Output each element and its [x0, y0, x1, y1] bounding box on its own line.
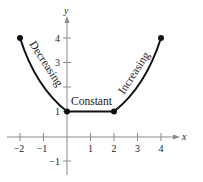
point-0-1: [64, 109, 70, 115]
y-axis-arrow-icon: [65, 16, 70, 23]
point-4-4: [158, 35, 164, 41]
x-axis-label: x: [181, 131, 187, 142]
x-tick-label: 1: [88, 143, 93, 154]
point-neg2-4: [17, 35, 23, 41]
x-tick-label: 4: [159, 143, 164, 154]
x-tick-label: −2: [14, 143, 25, 154]
x-axis-arrow-icon: [173, 135, 180, 140]
constant-label: Constant: [71, 95, 113, 107]
y-tick-label: 1: [55, 106, 60, 117]
y-tick-label: 4: [55, 33, 60, 44]
x-tick-label: −1: [37, 143, 48, 154]
x-axis: [7, 133, 180, 141]
point-2-1: [111, 109, 117, 115]
y-axis-label: y: [63, 5, 69, 16]
x-tick-label: 3: [135, 143, 140, 154]
y-axis: [63, 16, 71, 175]
y-tick-label: −1: [49, 156, 60, 167]
function-graph: x y −2 −1 1 2 3 4 4 3 1 −1 Decreasing Co…: [0, 0, 203, 182]
x-tick-label: 2: [112, 143, 117, 154]
